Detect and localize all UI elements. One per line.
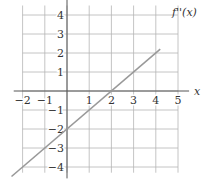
x-tick-label: −2 (14, 94, 30, 107)
y-tick-label: 3 (57, 28, 64, 41)
y-tick-label: −1 (48, 104, 64, 117)
y-tick-label: 4 (57, 9, 64, 22)
y-tick-label: 1 (57, 66, 64, 79)
y-tick-label: 2 (57, 47, 64, 60)
x-tick-label: 5 (175, 94, 182, 107)
x-tick-label: 2 (108, 94, 115, 107)
x-axis-label: x (194, 85, 201, 98)
curve-label: f''(x) (171, 6, 197, 19)
y-tick-label: −4 (48, 161, 64, 174)
x-tick-label: 1 (86, 94, 93, 107)
x-tick-label: 3 (130, 94, 137, 107)
f-double-prime-line (12, 49, 161, 176)
x-tick-label: 4 (152, 94, 159, 107)
chart: −2−1123454321−1−2−3−4 f''(x) x (0, 0, 210, 183)
